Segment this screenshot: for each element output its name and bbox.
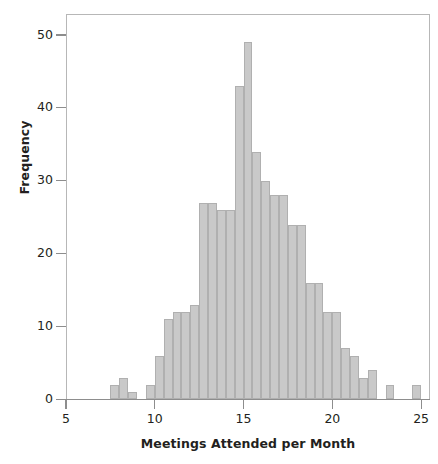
histogram-bar: [173, 312, 182, 399]
histogram-bar: [297, 225, 306, 400]
histogram-bar: [199, 203, 208, 400]
histogram-bar: [119, 378, 128, 400]
y-axis-tick-label: 30: [13, 172, 53, 187]
x-axis-tick-label: 10: [135, 411, 175, 426]
y-axis-tick: [56, 180, 66, 181]
histogram-bar: [359, 378, 368, 400]
y-axis-tick: [56, 326, 66, 327]
histogram-bar: [386, 385, 395, 400]
x-axis-tick: [332, 399, 333, 409]
x-axis-tick: [421, 399, 422, 409]
histogram-bar: [261, 181, 270, 400]
histogram-bar: [315, 283, 324, 400]
x-axis-tick-label: 15: [224, 411, 264, 426]
histogram-bar: [252, 152, 261, 400]
histogram-bar: [110, 385, 119, 400]
histogram-bar: [350, 356, 359, 400]
histogram-bar: [190, 305, 199, 400]
histogram-bar: [217, 210, 226, 400]
histogram-bar: [181, 312, 190, 399]
y-axis-tick-label: 20: [13, 245, 53, 260]
y-axis-tick: [56, 107, 66, 108]
histogram-chart: Frequency 01020304050 510152025 Meetings…: [0, 0, 438, 464]
bar-series: [0, 0, 438, 464]
histogram-bar: [323, 312, 332, 399]
x-axis-tick-label: 20: [312, 411, 352, 426]
histogram-bar: [288, 225, 297, 400]
histogram-bar: [368, 370, 377, 399]
histogram-bar: [332, 312, 341, 399]
y-axis-tick: [56, 253, 66, 254]
histogram-bar: [226, 210, 235, 400]
x-axis-tick: [65, 399, 66, 409]
x-axis-title: Meetings Attended per Month: [66, 436, 430, 451]
y-axis-tick-label: 50: [13, 27, 53, 42]
histogram-bar: [208, 203, 217, 400]
histogram-bar: [155, 356, 164, 400]
histogram-bar: [164, 319, 173, 399]
y-axis-tick-label: 10: [13, 318, 53, 333]
x-axis-tick: [154, 399, 155, 409]
y-axis-tick-label: 0: [13, 391, 53, 406]
y-axis-tick-label: 40: [13, 99, 53, 114]
histogram-bar: [341, 348, 350, 399]
histogram-bar: [244, 42, 253, 399]
histogram-bar: [270, 195, 279, 399]
x-axis-tick-label: 25: [401, 411, 438, 426]
x-axis-tick: [243, 399, 244, 409]
histogram-bar: [306, 283, 315, 400]
histogram-bar: [146, 385, 155, 400]
histogram-bar: [279, 195, 288, 399]
x-axis-tick-label: 5: [46, 411, 86, 426]
y-axis-tick: [56, 34, 66, 35]
histogram-bar: [235, 86, 244, 399]
histogram-bar: [412, 385, 421, 400]
